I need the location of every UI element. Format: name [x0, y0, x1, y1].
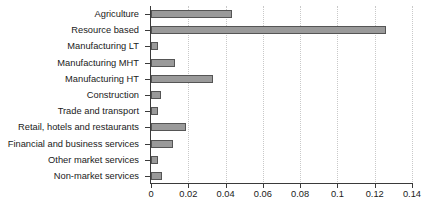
y-axis-tick [145, 176, 150, 177]
bar [151, 10, 232, 18]
x-axis-tick [226, 184, 227, 188]
category-label: Resource based [71, 25, 139, 35]
category-label: Manufacturing LT [67, 41, 139, 51]
y-axis-tick [145, 63, 150, 64]
x-axis-tick [412, 184, 413, 188]
category-axis-labels: AgricultureResource basedManufacturing L… [0, 0, 143, 184]
bar [151, 156, 158, 164]
x-axis-tick-label: 0.08 [291, 189, 309, 199]
x-axis-tick-label: 0 [148, 189, 153, 199]
bar [151, 172, 162, 180]
x-axis-tick-label: 0.1 [331, 189, 344, 199]
category-label: Trade and transport [58, 106, 139, 116]
x-axis-tick [188, 184, 189, 188]
bar [151, 59, 175, 67]
bar [151, 107, 158, 115]
bar [151, 42, 158, 50]
bar [151, 140, 173, 148]
x-axis-tick [337, 184, 338, 188]
y-axis-tick [145, 160, 150, 161]
bar [151, 26, 386, 34]
x-axis-tick-label: 0.02 [179, 189, 197, 199]
y-axis-tick [145, 144, 150, 145]
y-axis-tick [145, 111, 150, 112]
category-label: Financial and business services [8, 139, 139, 149]
category-label: Manufacturing MHT [57, 58, 139, 68]
category-label: Non-market services [54, 171, 139, 181]
y-axis-line [150, 6, 151, 184]
gridline [412, 6, 414, 184]
y-axis-tick [145, 127, 150, 128]
horizontal-bar-chart: AgricultureResource basedManufacturing L… [0, 0, 440, 202]
bar [151, 123, 186, 131]
y-axis-tick [145, 79, 150, 80]
bar [151, 75, 213, 83]
x-axis-tick [375, 184, 376, 188]
y-axis-tick [145, 30, 150, 31]
category-label: Other market services [48, 155, 139, 165]
y-axis-tick [145, 14, 150, 15]
x-axis-tick-label: 0.12 [366, 189, 384, 199]
x-axis-tick [300, 184, 301, 188]
category-label: Agriculture [95, 9, 139, 19]
x-axis-tick-label: 0.14 [403, 189, 421, 199]
x-axis-tick-label: 0.04 [217, 189, 235, 199]
x-axis-tick-label: 0.06 [254, 189, 272, 199]
category-label: Manufacturing HT [65, 74, 139, 84]
x-axis-tick [263, 184, 264, 188]
plot-area [151, 6, 412, 184]
x-axis-line [150, 183, 413, 184]
x-axis-tick [151, 184, 152, 188]
y-axis-tick [145, 46, 150, 47]
category-label: Retail, hotels and restaurants [18, 122, 139, 132]
bar [151, 91, 161, 99]
y-axis-tick [145, 95, 150, 96]
category-label: Construction [87, 90, 139, 100]
